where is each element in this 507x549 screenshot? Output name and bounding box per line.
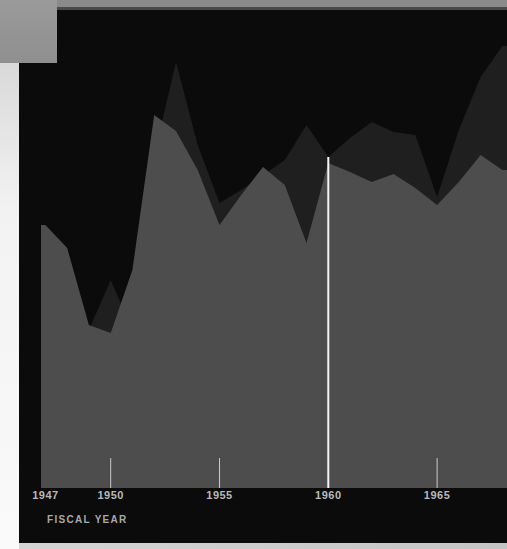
x-axis-title: FISCAL YEAR bbox=[47, 514, 128, 525]
x-tick-label-1950: 1950 bbox=[97, 489, 123, 501]
x-tick-label-1947: 1947 bbox=[32, 489, 58, 501]
x-tick-label-1965: 1965 bbox=[424, 489, 450, 501]
left-border-strip bbox=[0, 63, 19, 549]
top-left-corner-block bbox=[0, 0, 57, 63]
x-tick-label-1955: 1955 bbox=[206, 489, 232, 501]
top-border-band bbox=[0, 0, 507, 7]
x-tick-label-1960: 1960 bbox=[315, 489, 341, 501]
bottom-border-strip bbox=[19, 543, 507, 549]
slide-photo: 1947 1950 1955 1960 1965 FISCAL YEAR bbox=[0, 0, 507, 549]
area-chart bbox=[0, 0, 507, 549]
top-border-shadow bbox=[0, 7, 507, 10]
